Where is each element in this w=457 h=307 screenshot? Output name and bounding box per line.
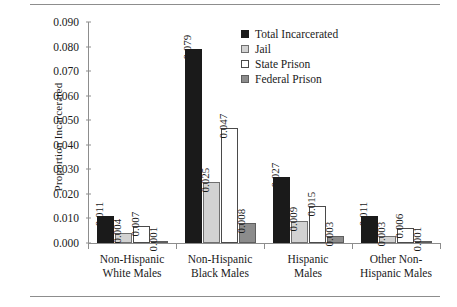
bar-group: 0.0110.0030.0060.001 xyxy=(352,22,440,243)
y-tick-label: 0.060 xyxy=(53,90,88,102)
y-tick-label: 0.000 xyxy=(53,237,88,249)
y-tick-label: 0.010 xyxy=(53,212,88,224)
legend-item[interactable]: Jail xyxy=(241,41,338,56)
bar-value-label: 0.003 xyxy=(324,221,335,246)
figure: Proportion Incarcerated 0.0900.0800.0700… xyxy=(0,0,457,307)
bar-value-label: 0.079 xyxy=(182,35,193,60)
legend-label: Federal Prison xyxy=(255,73,322,85)
top-divider xyxy=(30,4,440,5)
legend-item[interactable]: Federal Prison xyxy=(241,71,338,86)
x-tick-mark xyxy=(264,243,265,249)
bar[interactable] xyxy=(185,49,202,243)
y-tick-label: 0.030 xyxy=(53,163,88,175)
legend-label: Jail xyxy=(255,43,271,55)
bar-value-label: 0.027 xyxy=(270,162,281,187)
x-category-label: Other Non-Hispanic Males xyxy=(352,252,440,280)
bar-item[interactable]: 0.001 xyxy=(415,241,432,243)
bar-value-label: 0.004 xyxy=(112,219,123,244)
x-category-label: HispanicMales xyxy=(264,252,352,280)
legend-label: Total Incarcerated xyxy=(255,28,338,40)
bar-item[interactable]: 0.025 xyxy=(203,182,220,243)
bar-value-label: 0.006 xyxy=(394,214,405,239)
x-tick-mark xyxy=(352,243,353,249)
legend-swatch-icon xyxy=(241,45,249,53)
bar-value-label: 0.011 xyxy=(94,202,105,226)
bar-value-label: 0.047 xyxy=(218,113,229,138)
bar-value-label: 0.025 xyxy=(200,167,211,192)
bar-item[interactable]: 0.003 xyxy=(327,236,344,243)
legend-swatch-icon xyxy=(241,30,249,38)
x-tick-mark xyxy=(88,243,89,249)
bar-item[interactable]: 0.079 xyxy=(185,49,202,243)
y-tick-label: 0.050 xyxy=(53,114,88,126)
bar-value-label: 0.007 xyxy=(130,211,141,236)
y-tick-label: 0.080 xyxy=(53,41,88,53)
bar-value-label: 0.011 xyxy=(358,202,369,226)
y-tick-label: 0.020 xyxy=(53,188,88,200)
bar-value-label: 0.001 xyxy=(148,226,159,251)
bar-value-label: 0.015 xyxy=(306,192,317,217)
legend: Total IncarceratedJailState PrisonFedera… xyxy=(241,26,338,86)
x-category-label: Non-HispanicWhite Males xyxy=(88,252,176,280)
x-tick-mark xyxy=(176,243,177,249)
bar-value-label: 0.003 xyxy=(376,221,387,246)
bar-value-label: 0.001 xyxy=(412,226,423,251)
legend-item[interactable]: Total Incarcerated xyxy=(241,26,338,41)
legend-swatch-icon xyxy=(241,75,249,83)
bar-item[interactable]: 0.001 xyxy=(151,241,168,243)
x-category-label: Non-HispanicBlack Males xyxy=(176,252,264,280)
bottom-divider xyxy=(30,296,440,297)
y-tick-label: 0.090 xyxy=(53,16,88,28)
bar-item[interactable]: 0.008 xyxy=(239,223,256,243)
x-tick-mark xyxy=(440,243,441,249)
y-tick-label: 0.070 xyxy=(53,65,88,77)
legend-item[interactable]: State Prison xyxy=(241,56,338,71)
legend-swatch-icon xyxy=(241,60,249,68)
bar-value-label: 0.008 xyxy=(236,209,247,234)
y-tick-label: 0.040 xyxy=(53,139,88,151)
bar-value-label: 0.009 xyxy=(288,207,299,232)
bar-item[interactable]: 0.009 xyxy=(291,221,308,243)
bar-group: 0.0110.0040.0070.001 xyxy=(88,22,176,243)
legend-label: State Prison xyxy=(255,58,310,70)
